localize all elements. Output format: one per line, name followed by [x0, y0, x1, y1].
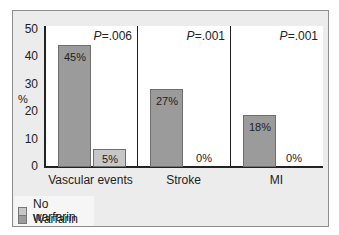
y-axis [44, 26, 46, 167]
bar-label-warfarin-vascular-events: 45% [55, 52, 95, 63]
y-axis-title: % [18, 93, 28, 105]
legend-label: Warfarin [33, 213, 78, 226]
bar-label-warfarin-mi: 18% [240, 122, 280, 133]
p-value-stroke: P=.001 [145, 30, 225, 42]
p-prefix: P [94, 29, 102, 43]
category-label-stroke: Stroke [137, 174, 230, 187]
p-value-text: =.001 [288, 29, 318, 43]
category-label-mi: MI [230, 174, 323, 187]
p-value-mi: P=.001 [238, 30, 318, 42]
p-prefix: P [187, 29, 195, 43]
y-tick-30: 30 [14, 78, 38, 90]
legend-item-warfarin: Warfarin [18, 213, 78, 226]
p-value-text: =.006 [102, 29, 132, 43]
y-tick-40: 40 [14, 50, 38, 62]
bar-label-nowarfarin-vascular-events: 5% [90, 154, 130, 165]
bar-label-warfarin-stroke: 27% [147, 96, 187, 107]
p-value-vascular-events: P=.006 [52, 30, 132, 42]
p-prefix: P [280, 29, 288, 43]
legend: No warfarin Warfarin [14, 196, 94, 226]
y-tick-10: 10 [14, 133, 38, 145]
p-value-text: =.001 [195, 29, 225, 43]
y-tick-20: 20 [14, 105, 38, 117]
category-label-vascular-events: Vascular events [44, 174, 137, 187]
bar-warfarin-vascular-events [58, 45, 91, 167]
bar-label-nowarfarin-stroke: 0% [184, 153, 224, 164]
y-tick-50: 50 [14, 23, 38, 35]
bar-label-nowarfarin-mi: 0% [274, 153, 314, 164]
y-tick-0: 0 [14, 160, 38, 172]
legend-swatch-warfarin [18, 215, 27, 224]
